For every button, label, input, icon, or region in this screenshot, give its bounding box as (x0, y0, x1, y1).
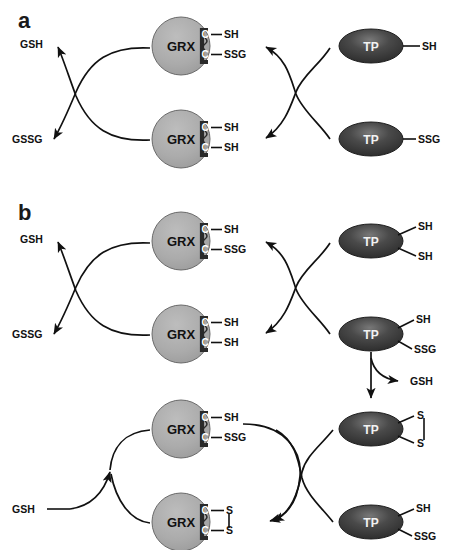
panel-letter-b: b (18, 200, 31, 225)
grx-b-3-cys2: C (201, 432, 208, 443)
grx-b-1-cys1: C (201, 224, 208, 235)
tp-a-top-label: TP (363, 40, 378, 54)
tp-b-2-bond1 (398, 320, 414, 328)
panel-b-gsh-input-label: GSH (12, 503, 35, 515)
arc-b-gsh-release (371, 358, 398, 381)
grx-b-2-label: GRX (167, 327, 196, 342)
tp-b-1-label: TP (363, 235, 378, 249)
tp-a-top-group: SH (422, 40, 437, 52)
grx-b-4-cys2: C (201, 525, 208, 536)
arc-b-gsh-input-to-cycle (70, 472, 110, 509)
panel-b-gsh-label: GSH (20, 233, 43, 245)
tp-b-2-group1: SH (416, 313, 431, 325)
tp-b-4-bond1 (398, 509, 414, 516)
tp-b-1-bond1 (398, 227, 416, 235)
tp-a-bottom-label: TP (363, 133, 378, 147)
tp-b-2-group2: SSG (414, 343, 436, 355)
tp-b-3-bond2 (398, 436, 414, 443)
panel-letter-a: a (18, 8, 31, 33)
arc-b-grx2-to-gsh (58, 242, 150, 335)
tp-b-1-bond2 (398, 248, 416, 256)
arc-a-grx-bottom-to-gsh (58, 47, 150, 140)
grx-b-4-cys1: C (201, 505, 208, 516)
grx-a-top-cys2: C (201, 49, 208, 60)
grx-a-top-cys1: C (201, 29, 208, 40)
grx-a-top-group1: SH (224, 28, 239, 40)
grx-a-bottom-cys1: C (201, 122, 208, 133)
tp-b-4-group2: SSG (414, 530, 436, 542)
grx-b-2-group2: SH (224, 336, 239, 348)
arc-b-tp1-to-grx2 (266, 243, 330, 333)
grx-b-1-cys2: C (201, 244, 208, 255)
arc-b-grx4-left (111, 474, 150, 523)
grx-b-3-group1: SH (224, 411, 239, 423)
grx-b-4-group1: S (226, 504, 233, 516)
grx-b-1-group1: SH (224, 223, 239, 235)
arc-b-tp3-to-grx4 (274, 430, 333, 521)
grx-b-4-group2: S (226, 524, 233, 536)
grx-b-4-label: GRX (167, 515, 196, 530)
grx-b-3-cys1: C (201, 412, 208, 423)
grx-b-3-label: GRX (167, 422, 196, 437)
grx-b-2-cys1: C (201, 317, 208, 328)
tp-b-3-label: TP (363, 423, 378, 437)
tp-b-3-group2: S (417, 437, 424, 449)
arc-b-grx3-to-grx4-right (243, 424, 300, 521)
arc-b-grx3-left (110, 430, 150, 470)
tp-b-2-bond2 (398, 341, 412, 349)
grx-a-bottom-cys2: C (201, 142, 208, 153)
panel-a-gssg-label: GSSG (12, 133, 42, 145)
panel-b-gssg-label: GSSG (12, 328, 42, 340)
tp-b-3-bond1 (398, 416, 414, 423)
tp-b-3-group1: S (417, 409, 424, 421)
reaction-diagram: a GSH GSSG GRX C C SH SSG GRX C C SH SH (0, 0, 456, 550)
tp-b-4-label: TP (363, 516, 378, 530)
grx-b-1-group2: SSG (224, 243, 246, 255)
grx-a-bottom-label: GRX (167, 132, 196, 147)
grx-a-top-label: GRX (167, 39, 196, 54)
tp-b-2-label: TP (363, 328, 378, 342)
tp-a-bottom-group: SSG (418, 133, 440, 145)
grx-b-3-group2: SSG (224, 431, 246, 443)
grx-b-2-group1: SH (224, 316, 239, 328)
arc-a-tp-top-to-grx-bottom (266, 48, 330, 138)
arc-a-grx-top-to-gssg (54, 48, 150, 139)
grx-a-bottom-group1: SH (224, 121, 239, 133)
tp-b-4-bond2 (398, 529, 412, 536)
tp-b-1-group1: SH (418, 220, 433, 232)
grx-a-bottom-group2: SH (224, 141, 239, 153)
arc-b-grx1-to-gssg (54, 243, 150, 334)
gsh-released-label: GSH (410, 375, 433, 387)
grx-a-top-group2: SSG (224, 48, 246, 60)
grx-b-2-cys2: C (201, 337, 208, 348)
figure-root: a GSH GSSG GRX C C SH SSG GRX C C SH SH (0, 0, 456, 550)
grx-b-1-label: GRX (167, 234, 196, 249)
tp-b-1-group2: SH (418, 250, 433, 262)
arc-b-tp4-to-grx3 (276, 430, 333, 522)
tp-b-4-group1: SH (416, 502, 431, 514)
panel-a-gsh-label: GSH (20, 38, 43, 50)
